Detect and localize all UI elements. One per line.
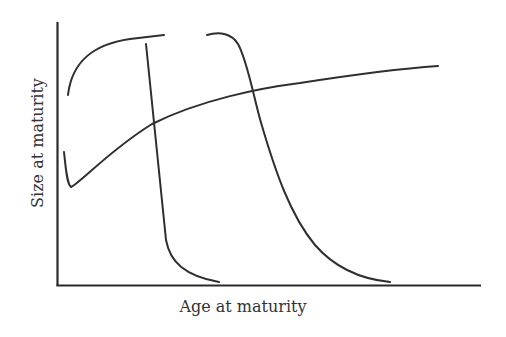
plateau-then-decline-curve (207, 33, 390, 282)
diagram-figure: Age at maturity Size at maturity (0, 0, 506, 337)
curves (64, 33, 438, 282)
x-axis-label: Age at maturity (178, 297, 306, 316)
y-axis-label: Size at maturity (28, 78, 47, 208)
steep-decline-curve-1 (146, 44, 219, 282)
axes (57, 22, 482, 286)
